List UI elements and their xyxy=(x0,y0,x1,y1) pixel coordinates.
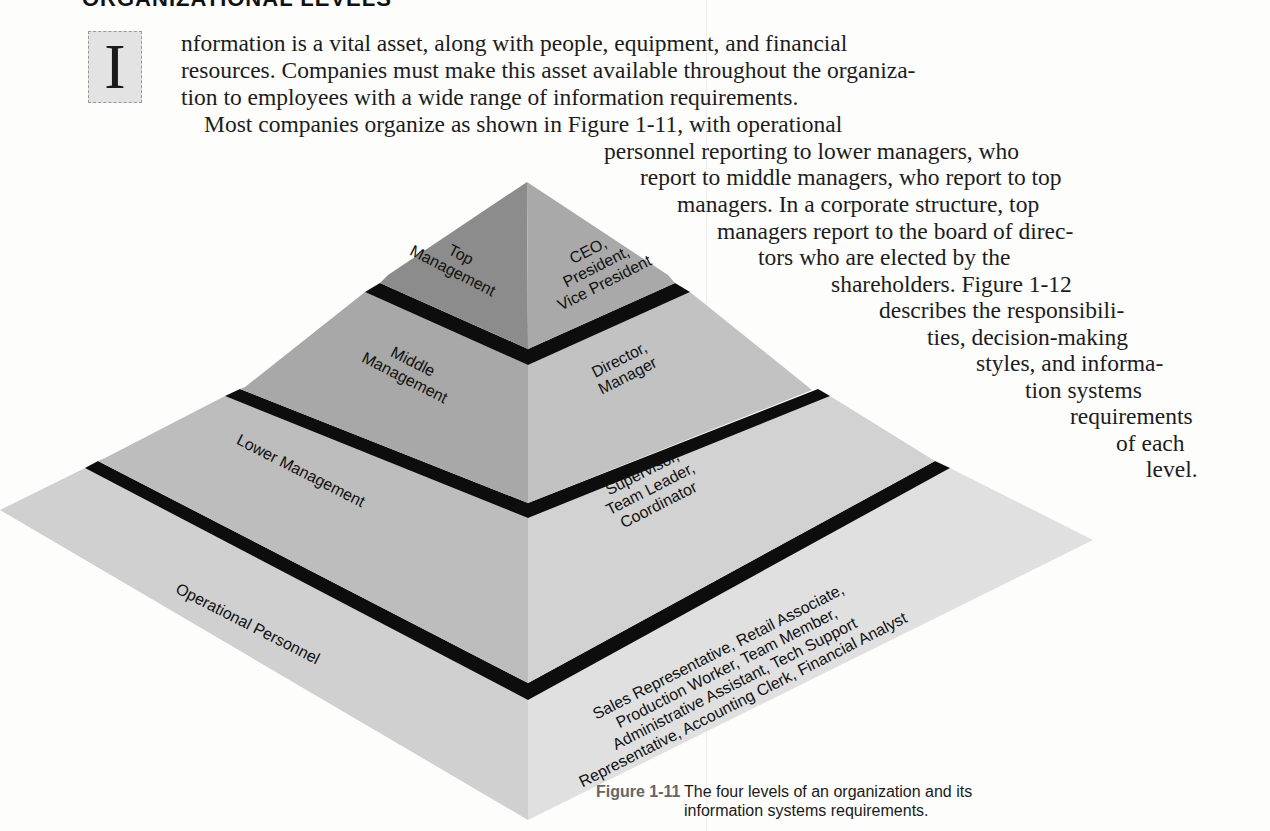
figure-caption-number: Figure 1-11 xyxy=(596,783,680,801)
figure-caption-text: The four levels of an organization and i… xyxy=(684,782,1054,820)
